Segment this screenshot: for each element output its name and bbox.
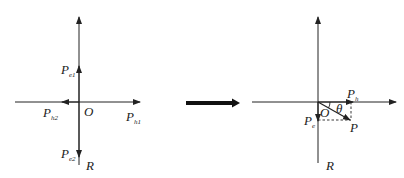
label-r: R <box>325 158 334 173</box>
right-diagram: Ph θ O Pe P R <box>252 17 396 173</box>
label-origin: O <box>84 104 94 119</box>
left-diagram: Pe1 Ph2 O Ph1 Pe2 R <box>15 17 141 173</box>
label-ph: Ph <box>346 86 359 103</box>
label-pe2: Pe2 <box>60 146 76 163</box>
label-origin: O <box>320 105 330 120</box>
label-ph2: Ph2 <box>42 105 58 122</box>
label-p: P <box>349 120 358 135</box>
label-ph1: Ph1 <box>125 109 141 126</box>
transition-arrow-icon <box>186 99 240 108</box>
label-pe1: Pe1 <box>60 62 76 79</box>
label-pe: Pe <box>303 113 315 130</box>
label-r: R <box>85 158 94 173</box>
label-theta: θ <box>336 101 343 116</box>
force-decomposition-diagram: Pe1 Ph2 O Ph1 Pe2 R Ph θ O Pe P R <box>0 0 404 178</box>
